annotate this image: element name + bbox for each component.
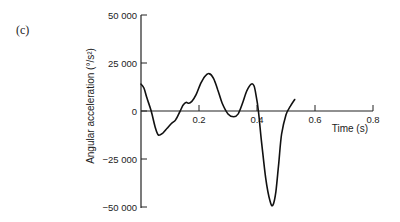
line-chart: 50 00025 0000−25 000−50 0000.20.40.60.8 … <box>0 0 400 222</box>
y-tick-label: −25 000 <box>102 154 137 165</box>
x-tick-label: 0.8 <box>366 114 379 125</box>
y-tick-label: 0 <box>132 106 137 117</box>
y-tick-label: 50 000 <box>108 10 137 21</box>
axes <box>141 15 373 208</box>
x-tick-label: 0.6 <box>308 114 321 125</box>
x-tick-label: 0.4 <box>250 114 263 125</box>
x-axis-title: Time (s) <box>332 123 368 134</box>
x-tick-label: 0.2 <box>192 114 205 125</box>
data-line <box>141 74 295 206</box>
y-axis-title: Angular acceleration (°/s²) <box>85 48 96 164</box>
y-tick-label: 25 000 <box>108 58 137 69</box>
y-tick-label: −50 000 <box>102 202 137 213</box>
